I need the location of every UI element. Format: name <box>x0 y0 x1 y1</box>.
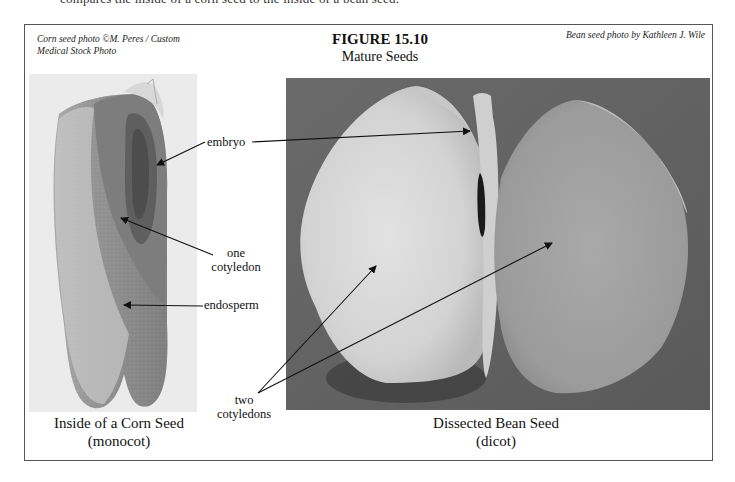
bean-photo-credit: Bean seed photo by Kathleen J. Wile <box>566 30 705 40</box>
caption-bean-seed: Dissected Bean Seed (dicot) <box>386 414 606 450</box>
label-one-cotyledon-line2: cotyledon <box>211 260 260 274</box>
cut-off-body-text: compares the inside of a corn seed to th… <box>60 0 399 7</box>
figure-number: FIGURE 15.10 <box>310 31 450 48</box>
label-two-cotyledons-line1: two <box>235 393 254 407</box>
label-one-cotyledon-line1: one <box>227 246 245 260</box>
label-embryo: embryo <box>207 135 245 149</box>
figure-title: Mature Seeds <box>310 48 450 65</box>
corn-credit-line2: Medical Stock Photo <box>37 46 116 56</box>
label-one-cotyledon: one cotyledon <box>208 246 264 274</box>
caption-corn-line1: Inside of a Corn Seed <box>54 415 184 431</box>
bean-seed-illustration <box>286 78 710 410</box>
figure-title-block: FIGURE 15.10 Mature Seeds <box>310 31 450 65</box>
corn-photo-credit: Corn seed photo ©M. Peres / Custom Medic… <box>37 33 237 57</box>
label-two-cotyledons-line2: cotyledons <box>217 407 271 421</box>
bean-seed-photo <box>286 78 710 410</box>
caption-corn-seed: Inside of a Corn Seed (monocot) <box>24 414 214 450</box>
caption-bean-line1: Dissected Bean Seed <box>433 415 559 431</box>
corn-seed-photo <box>29 74 197 412</box>
label-two-cotyledons: two cotyledons <box>212 393 276 421</box>
caption-corn-line2: (monocot) <box>88 433 150 449</box>
corn-seed-illustration <box>29 74 197 412</box>
corn-credit-line1: Corn seed photo ©M. Peres / Custom <box>37 34 180 44</box>
caption-bean-line2: (dicot) <box>476 433 516 449</box>
label-endosperm: endosperm <box>204 298 259 312</box>
